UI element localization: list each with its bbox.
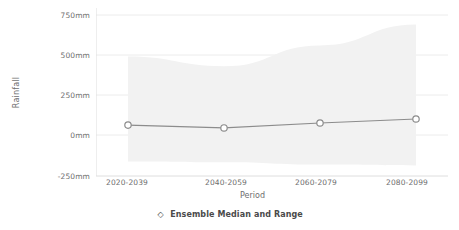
y-tick-label: 250mm <box>28 91 90 100</box>
rainfall-period-chart: Rainfall 750mm 500mm 250mm 0mm -250mm 20… <box>0 0 459 230</box>
x-axis-title: Period <box>0 191 459 200</box>
plot-area <box>96 8 448 180</box>
y-tick-label: 750mm <box>28 11 90 20</box>
x-tick-label: 2080-2099 <box>362 178 452 187</box>
median-marker <box>221 125 227 131</box>
y-axis-title: Rainfall <box>12 63 21 123</box>
y-axis-tick-labels: 750mm 500mm 250mm 0mm -250mm <box>28 0 90 190</box>
median-marker <box>125 122 131 128</box>
x-tick-label: 2020-2039 <box>82 178 172 187</box>
legend-item-label: Ensemble Median and Range <box>170 210 303 219</box>
median-marker <box>317 120 323 126</box>
x-tick-label: 2060-2079 <box>271 178 361 187</box>
y-tick-label: 0mm <box>28 131 90 140</box>
x-axis-title-text: Period <box>240 191 265 200</box>
chart-legend: ◇ Ensemble Median and Range <box>0 210 459 219</box>
diamond-open-icon: ◇ <box>156 210 165 219</box>
x-tick-label: 2040-2059 <box>181 178 271 187</box>
ensemble-range-band <box>128 25 416 166</box>
median-marker <box>413 116 419 122</box>
y-tick-label: 500mm <box>28 51 90 60</box>
y-tick-label: -250mm <box>28 172 90 181</box>
